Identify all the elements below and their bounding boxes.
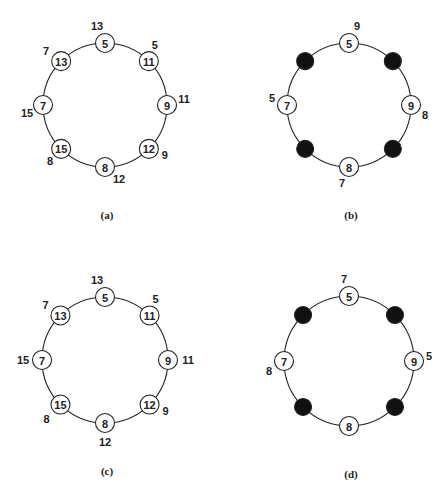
outer-label: 12: [113, 173, 125, 185]
outer-label: 5: [269, 92, 275, 104]
node-label: 8: [102, 162, 108, 174]
outer-label: 5: [152, 293, 158, 305]
outer-label: 15: [21, 107, 33, 119]
outer-label: 8: [47, 155, 53, 167]
node-label: 15: [55, 143, 67, 155]
node-label: 7: [40, 100, 46, 112]
node-label: 5: [102, 38, 108, 50]
ring-diagram-figure: 513115911129812158715137(a)59988775(b)51…: [0, 0, 446, 495]
filled-node: [297, 53, 314, 70]
filled-node: [384, 53, 401, 70]
filled-node: [297, 140, 314, 157]
node-label: 7: [39, 355, 45, 367]
outer-label: 7: [341, 273, 347, 285]
panel-caption: (d): [344, 468, 358, 481]
outer-label: 11: [182, 354, 194, 366]
panel-a: 513115911129812158715137(a): [21, 20, 190, 222]
panel-caption: (a): [101, 209, 114, 222]
node-label: 9: [411, 356, 417, 368]
node-label: 9: [165, 355, 171, 367]
filled-node: [386, 398, 403, 415]
node-label: 7: [284, 100, 290, 112]
outer-label: 9: [162, 405, 168, 417]
panel-b: 59988775(b): [269, 20, 428, 222]
node-label: 8: [346, 421, 352, 433]
outer-label: 9: [354, 20, 360, 32]
node-label: 9: [164, 100, 170, 112]
filled-node: [295, 398, 312, 415]
panel-caption: (c): [101, 465, 114, 478]
node-label: 5: [346, 291, 352, 303]
outer-label: 12: [99, 436, 111, 448]
panel-caption: (b): [344, 209, 358, 222]
node-label: 13: [55, 56, 67, 68]
filled-node: [384, 140, 401, 157]
outer-label: 7: [43, 45, 49, 57]
node-label: 12: [143, 143, 155, 155]
outer-label: 7: [339, 177, 345, 189]
node-label: 12: [143, 399, 155, 411]
node-label: 13: [54, 310, 66, 322]
node-label: 11: [144, 310, 156, 322]
node-label: 5: [346, 38, 352, 50]
outer-label: 8: [266, 365, 272, 377]
outer-label: 13: [91, 274, 103, 286]
filled-node: [386, 307, 403, 324]
outer-label: 5: [152, 39, 158, 51]
node-label: 15: [54, 399, 66, 411]
filled-node: [295, 307, 312, 324]
node-label: 8: [346, 162, 352, 174]
outer-label: 11: [178, 93, 190, 105]
outer-label: 8: [43, 413, 49, 425]
node-label: 7: [281, 356, 287, 368]
outer-label: 8: [422, 109, 428, 121]
node-label: 11: [143, 56, 155, 68]
panel-d: 5795878(d): [266, 273, 432, 481]
outer-label: 5: [426, 350, 432, 362]
outer-label: 15: [17, 354, 29, 366]
panel-c: 513115911129812158715137(c): [17, 274, 194, 478]
outer-label: 13: [91, 20, 103, 32]
node-label: 5: [102, 292, 108, 304]
outer-label: 7: [42, 299, 48, 311]
node-label: 9: [408, 100, 414, 112]
outer-label: 9: [162, 149, 168, 161]
node-label: 8: [102, 418, 108, 430]
